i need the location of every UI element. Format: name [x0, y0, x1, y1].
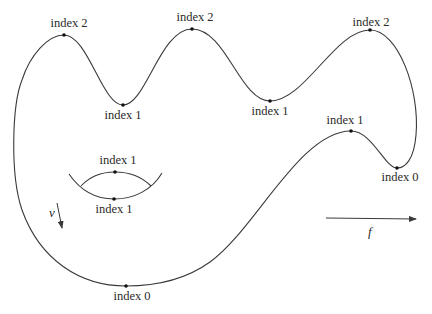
v-arrow-icon [57, 203, 62, 228]
critical-point-min-bottom [124, 284, 128, 288]
critical-point-min-middle [268, 99, 272, 103]
label-max-middle: index 2 [176, 10, 213, 24]
label-lens-top: index 1 [99, 153, 136, 167]
label-min-middle: index 1 [251, 104, 288, 118]
label-lens-bottom: index 1 [95, 202, 132, 216]
label-min-left: index 1 [104, 108, 141, 122]
lens-point-top [113, 170, 117, 174]
label-max-left: index 2 [50, 16, 87, 30]
lens-lower-arc [69, 173, 162, 199]
label-min-right: index 0 [381, 170, 418, 184]
diagram-canvas: index 2 index 1 index 2 index 1 index 2 … [0, 0, 432, 314]
f-label: f [368, 224, 374, 239]
v-label: v [49, 205, 55, 220]
critical-point-saddle-right [349, 129, 353, 133]
label-max-right: index 2 [352, 15, 389, 29]
critical-point-min-left [121, 103, 125, 107]
f-arrow-icon [326, 218, 416, 219]
lens-point-bottom [112, 197, 116, 201]
critical-point-max-middle [190, 27, 194, 31]
lens-upper-arc [81, 172, 151, 186]
label-saddle-right: index 1 [326, 113, 363, 127]
main-level-curve [14, 29, 417, 286]
critical-point-max-left [62, 33, 66, 37]
label-min-bottom: index 0 [113, 289, 150, 303]
